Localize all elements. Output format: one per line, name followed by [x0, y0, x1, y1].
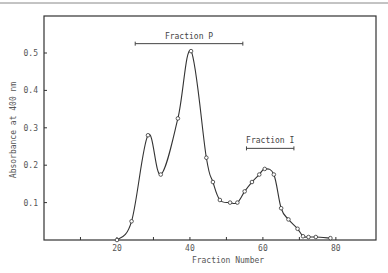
data-point	[211, 180, 215, 184]
data-point	[329, 236, 333, 240]
data-point	[159, 173, 163, 177]
data-point	[130, 220, 134, 224]
y-tick-label: 0.5	[24, 49, 39, 58]
y-axis-label: Absorbance at 400 nm	[9, 82, 18, 179]
data-point	[272, 173, 276, 177]
x-axis-ticks: 20406080	[80, 237, 340, 253]
x-tick-label: 40	[185, 244, 195, 253]
data-point	[287, 218, 291, 222]
data-point	[296, 227, 300, 231]
plot-frame	[44, 16, 376, 240]
y-tick-label: 0.3	[24, 124, 39, 133]
data-point	[243, 190, 247, 194]
x-tick-label: 20	[112, 244, 122, 253]
x-tick-label: 60	[258, 244, 268, 253]
data-point	[115, 238, 119, 242]
axes-box	[44, 16, 376, 240]
data-point	[307, 235, 311, 239]
x-axis-label: Fraction Number	[192, 256, 264, 265]
y-tick-label: 0.4	[24, 86, 39, 95]
fraction-range-label: Fraction I	[246, 136, 294, 145]
fraction-annotations: Fraction PFraction I	[135, 32, 294, 151]
data-point	[314, 235, 318, 239]
data-point	[236, 201, 240, 205]
data-point	[146, 133, 150, 137]
x-tick-label: 80	[331, 244, 341, 253]
data-point	[205, 156, 209, 160]
data-point	[228, 201, 232, 205]
data-point	[189, 49, 193, 53]
chart-canvas: 20406080 0.10.20.30.40.5 Fraction Number…	[0, 0, 388, 273]
data-point	[176, 117, 180, 121]
data-point	[279, 206, 283, 210]
data-point	[263, 167, 267, 171]
data-point-markers	[115, 49, 332, 241]
data-point	[218, 198, 222, 202]
fraction-range-label: Fraction P	[165, 32, 213, 41]
data-point	[250, 180, 254, 184]
y-tick-label: 0.2	[24, 161, 39, 170]
data-point	[257, 173, 261, 177]
absorbance-curve	[117, 50, 330, 240]
data-point	[301, 234, 305, 238]
y-tick-label: 0.1	[24, 199, 39, 208]
